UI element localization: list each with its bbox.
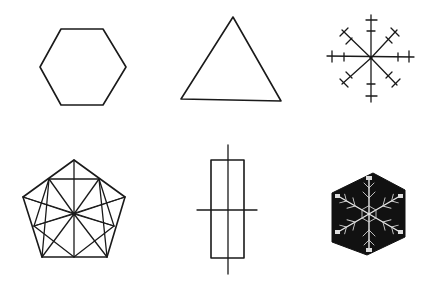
asterisk-ticks-icon: [327, 15, 414, 102]
symbol-figure-svg: [0, 0, 437, 281]
snowflake-icon: [332, 173, 405, 255]
hexagon-outline-icon: [40, 29, 126, 105]
rectangle-cross-icon: [197, 145, 257, 274]
pentagon-star-icon: [23, 160, 125, 257]
symbol-figure: [0, 0, 437, 281]
triangle-outline-icon: [181, 17, 281, 101]
